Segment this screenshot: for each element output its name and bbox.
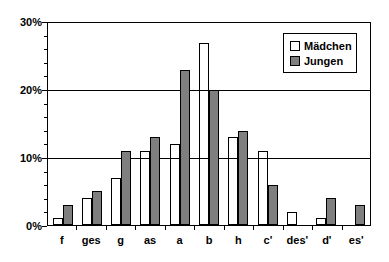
y-minor-tick	[44, 117, 47, 118]
x-boundary-tick	[253, 226, 254, 230]
y-minor-tick	[44, 172, 47, 173]
bar-Mädchen-b	[199, 43, 209, 225]
x-boundary-tick	[165, 226, 166, 230]
y-major-tick	[42, 158, 47, 159]
x-boundary-tick	[224, 226, 225, 230]
y-axis-label-20%: 20%	[0, 84, 42, 96]
bar-Mädchen-ges	[82, 198, 92, 225]
bar-Jungen-d'	[326, 198, 336, 225]
y-axis-label-30%: 30%	[0, 16, 42, 28]
y-major-tick	[42, 226, 47, 227]
bar-Jungen-b	[209, 90, 219, 225]
x-axis-label-c': c'	[253, 234, 282, 246]
bar-chart-figure: 0%10%20%30% fgesgasabhc'des'd'es' Mädche…	[0, 0, 389, 262]
y-axis-label-10%: 10%	[0, 152, 42, 164]
y-minor-tick	[44, 49, 47, 50]
x-axis-label-b: b	[194, 234, 223, 246]
bar-Mädchen-a	[170, 144, 180, 225]
legend: MädchenJungen	[283, 33, 357, 73]
y-minor-tick	[44, 63, 47, 64]
x-boundary-tick	[312, 226, 313, 230]
x-boundary-tick	[283, 226, 284, 230]
y-minor-tick	[44, 199, 47, 200]
bar-Jungen-ges	[92, 191, 102, 225]
x-axis-label-des': des'	[283, 234, 312, 246]
x-boundary-tick	[342, 226, 343, 230]
y-axis-label-0%: 0%	[0, 220, 42, 232]
bar-Mädchen-h	[228, 137, 238, 225]
bar-Mädchen-as	[140, 151, 150, 225]
x-boundary-tick	[135, 226, 136, 230]
bar-Mädchen-f	[53, 218, 63, 225]
y-minor-tick	[44, 144, 47, 145]
bar-Jungen-es'	[355, 205, 365, 225]
x-boundary-tick	[106, 226, 107, 230]
y-minor-tick	[44, 76, 47, 77]
x-axis-label-h: h	[224, 234, 253, 246]
legend-item-Jungen: Jungen	[290, 53, 356, 68]
y-minor-tick	[44, 185, 47, 186]
y-minor-tick	[44, 104, 47, 105]
legend-swatch-Mädchen	[290, 41, 300, 51]
x-boundary-tick	[76, 226, 77, 230]
bar-Jungen-f	[63, 205, 73, 225]
bar-Mädchen-g	[111, 178, 121, 225]
bar-Mädchen-c'	[258, 151, 268, 225]
bar-Jungen-c'	[268, 185, 278, 225]
bar-Jungen-a	[180, 70, 190, 225]
bar-Jungen-h	[238, 131, 248, 225]
legend-label-Jungen: Jungen	[304, 55, 343, 67]
x-axis-label-a: a	[165, 234, 194, 246]
y-minor-tick	[44, 212, 47, 213]
x-axis-label-f: f	[47, 234, 76, 246]
y-major-tick	[42, 90, 47, 91]
bar-Jungen-g	[121, 151, 131, 225]
y-major-tick	[42, 22, 47, 23]
legend-label-Mädchen: Mädchen	[304, 40, 352, 52]
y-minor-tick	[44, 36, 47, 37]
bar-Mädchen-d'	[316, 218, 326, 225]
x-boundary-tick	[194, 226, 195, 230]
x-axis-label-ges: ges	[76, 234, 105, 246]
bar-Jungen-as	[150, 137, 160, 225]
y-minor-tick	[44, 131, 47, 132]
x-axis-label-d': d'	[312, 234, 341, 246]
legend-swatch-Jungen	[290, 56, 300, 66]
bar-Mädchen-des'	[287, 212, 297, 225]
x-axis-label-as: as	[135, 234, 164, 246]
x-axis-label-es': es'	[342, 234, 371, 246]
legend-item-Mädchen: Mädchen	[290, 38, 356, 53]
x-axis-label-g: g	[106, 234, 135, 246]
